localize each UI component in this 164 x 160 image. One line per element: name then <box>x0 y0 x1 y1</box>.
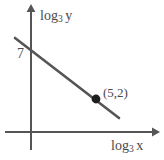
data-point-marker <box>92 95 101 104</box>
plot-canvas <box>0 0 164 160</box>
y-axis-label: log3y <box>40 9 72 25</box>
y-intercept-tick-label: 7 <box>17 47 24 61</box>
data-point-label: (5,2) <box>103 86 128 99</box>
x-axis-label-variable: x <box>134 138 143 153</box>
x-axis-label-base: log <box>111 138 129 153</box>
x-axis <box>5 128 160 137</box>
y-axis-label-variable: y <box>63 8 72 23</box>
log-log-plot-figure: log3y log3x 7 (5,2) <box>0 0 164 160</box>
y-axis <box>27 4 36 150</box>
x-axis-label: log3x <box>111 139 143 155</box>
y-axis-label-base: log <box>40 8 58 23</box>
